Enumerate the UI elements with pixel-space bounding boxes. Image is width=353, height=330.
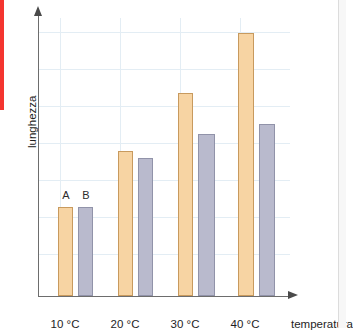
bar-a-30c [178,93,193,296]
xtick-40c: 40 °C [222,318,268,330]
series-label-b: B [78,190,94,201]
plot-area: A B 10 °C 20 °C 30 °C 40 °C temperatura … [38,18,290,296]
bar-chart: A B 10 °C 20 °C 30 °C 40 °C temperatura … [0,0,338,328]
right-margin [339,0,346,328]
xtick-10c: 10 °C [42,318,88,330]
bar-a-40c [238,33,254,296]
bar-b-20c [138,158,153,296]
series-label-a: A [58,190,74,201]
bar-a-10c [58,207,73,296]
y-axis-line [38,14,39,297]
x-axis-arrow-icon [288,291,298,299]
y-axis-label: lunghezza [26,96,38,148]
bar-b-30c [198,134,215,296]
x-axis-line [38,296,291,297]
bar-b-40c [259,124,275,296]
bar-b-10c [78,207,93,296]
bar-a-20c [118,151,133,296]
xtick-20c: 20 °C [102,318,148,330]
xtick-30c: 30 °C [162,318,208,330]
y-axis-arrow-icon [34,6,42,16]
